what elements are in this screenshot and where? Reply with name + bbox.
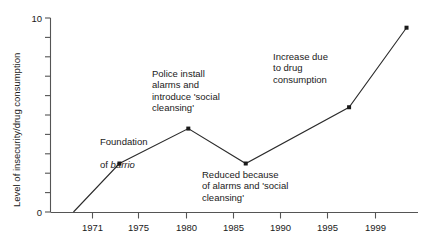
insecurity-drug-consumption-line-chart: 10 0 Level of insecurity/drug consumptio… <box>0 0 432 247</box>
x-tick-label-1995: 1995 <box>317 222 338 233</box>
annotation-foundation-line2-prefix: of <box>100 159 111 170</box>
annotation-foundation: Foundation of barrio <box>100 125 148 171</box>
annotation-foundation-line1: Foundation <box>100 136 148 147</box>
annotation-increase-due: Increase due to drug consumption <box>273 51 328 85</box>
y-tick-label-10: 10 <box>31 13 42 24</box>
y-axis-ticks <box>45 18 51 212</box>
annotation-police-install: Police install alarms and introduce 'soc… <box>152 68 220 114</box>
annotation-reduced-because: Reduced because of alarms and 'social cl… <box>202 169 288 203</box>
x-tick-label-1999: 1999 <box>365 222 386 233</box>
chart-canvas: 10 0 Level of insecurity/drug consumptio… <box>0 0 432 247</box>
y-tick-label-0: 0 <box>37 207 42 218</box>
x-axis-ticks <box>93 213 376 219</box>
x-tick-label-1980: 1980 <box>176 222 197 233</box>
x-tick-label-1971: 1971 <box>82 222 103 233</box>
x-tick-label-1985: 1985 <box>223 222 244 233</box>
data-point-1995 <box>347 105 351 109</box>
annotation-foundation-barrio: barrio <box>111 159 135 170</box>
data-point-1981 <box>186 127 190 131</box>
y-axis-title: Level of insecurity/drug consumption <box>11 53 22 207</box>
x-tick-label-1975: 1975 <box>128 222 149 233</box>
x-tick-label-1990: 1990 <box>270 222 291 233</box>
data-point-1986 <box>244 162 248 166</box>
data-point-2000 <box>405 26 409 30</box>
